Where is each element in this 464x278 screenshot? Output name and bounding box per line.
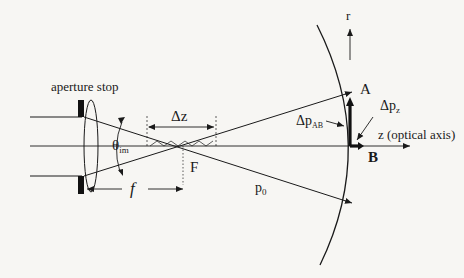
delta-p-z-label: Δpz xyxy=(380,98,400,115)
aperture-stop-label: aperture stop xyxy=(51,79,119,94)
delta-p-ab-arrowhead-icon xyxy=(346,97,354,106)
focal-length-label: f xyxy=(130,179,137,198)
z-axis-label: z (optical axis) xyxy=(378,127,455,142)
delta-p-z-pointer xyxy=(357,117,373,140)
spherical-surface-arc xyxy=(317,25,348,265)
focal-point-label: F xyxy=(190,159,198,175)
optical-diagram: aperture stop θim Δz F f p0 ΔpAB Δpz A B… xyxy=(0,0,464,278)
delta-z-label: Δz xyxy=(171,108,188,124)
diagram-svg: aperture stop θim Δz F f p0 ΔpAB Δpz A B… xyxy=(0,0,464,278)
delta-p-z-arrowhead-icon xyxy=(358,142,364,150)
theta-arc-arrow-bottom-icon xyxy=(118,169,123,176)
point-a-label: A xyxy=(360,81,371,97)
p0-label: p0 xyxy=(255,180,267,197)
delta-p-ab-label: ΔpAB xyxy=(296,113,323,130)
theta-arc-arrow-top-icon xyxy=(118,117,125,124)
aperture-stop-top-block xyxy=(78,100,84,117)
aperture-stop-bottom-block xyxy=(78,176,84,194)
delta-p-ab-pointer xyxy=(326,121,344,126)
point-b-label: B xyxy=(368,149,378,165)
r-axis-label: r xyxy=(346,8,351,23)
theta-label: θim xyxy=(112,137,129,155)
ray-bottom-to-top xyxy=(84,92,352,176)
